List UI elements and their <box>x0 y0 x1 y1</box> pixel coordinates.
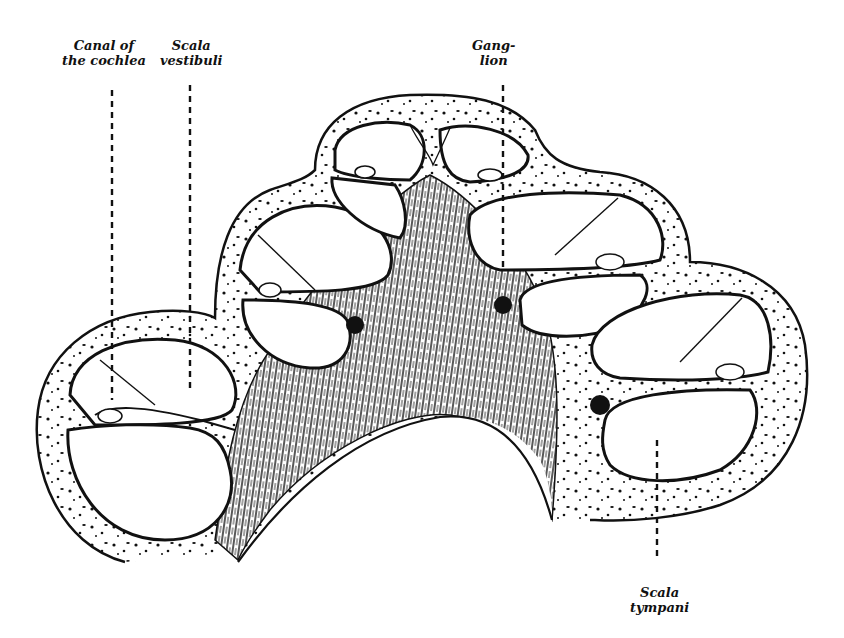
label-line: Scala <box>160 38 223 53</box>
cochlea-cross-section-figure: Canal of the cochlea Scala vestibuli Gan… <box>0 0 844 638</box>
label-line: Scala <box>630 585 689 600</box>
label-line: tympani <box>630 600 689 615</box>
label-line: Gang- <box>472 38 515 53</box>
label-ganglion: Gang- lion <box>472 38 515 68</box>
label-canal-of-the-cochlea: Canal of the cochlea <box>62 38 146 68</box>
label-line: Canal of <box>62 38 146 53</box>
label-line: lion <box>472 53 515 68</box>
label-scala-vestibuli: Scala vestibuli <box>160 38 223 68</box>
label-scala-tympani: Scala tympani <box>630 585 689 615</box>
label-line: vestibuli <box>160 53 223 68</box>
label-line: the cochlea <box>62 53 146 68</box>
cochlea-drawing <box>0 0 844 638</box>
